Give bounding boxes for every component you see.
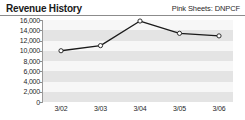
x-axis-tick-label: 3/06: [213, 105, 226, 113]
x-axis-tick-label: 3/02: [55, 105, 68, 113]
y-axis-tick-label: 2,000: [0, 88, 40, 95]
series-revenue: [43, 20, 233, 102]
data-point-marker: [177, 31, 181, 35]
revenue-history-widget: Revenue History Pink Sheets: DNPCF 16,00…: [0, 0, 245, 120]
x-axis-labels: 3/023/033/043/053/06: [43, 105, 233, 117]
y-axis-tick-label: 14,000: [0, 27, 40, 34]
widget-header: Revenue History Pink Sheets: DNPCF: [0, 0, 245, 16]
y-axis-tick-label: 6,000: [0, 68, 40, 75]
y-axis-tick-label: 16,000: [0, 17, 40, 24]
data-point-marker: [59, 49, 63, 53]
data-point-marker: [217, 34, 221, 38]
x-axis-tick-label: 3/03: [94, 105, 107, 113]
x-axis-tick-label: 3/05: [173, 105, 186, 113]
y-axis-tick-label: 10,000: [0, 47, 40, 54]
plot-area: [43, 20, 233, 102]
data-point-marker: [138, 19, 142, 23]
x-axis-tick-label: 3/04: [134, 105, 147, 113]
y-axis-labels: 16,00014,00012,00010,0008,0006,0004,0002…: [0, 17, 40, 120]
ticker-label: Pink Sheets: DNPCF: [172, 4, 240, 13]
y-axis-tick-label: 4,000: [0, 78, 40, 85]
revenue-line-chart: 16,00014,00012,00010,0008,0006,0004,0002…: [0, 17, 245, 120]
series-line: [61, 21, 219, 51]
data-point-marker: [98, 44, 102, 48]
y-axis-tick-label: 8,000: [0, 58, 40, 65]
y-axis-tick-label: 0: [0, 99, 40, 106]
y-axis-tick-label: 12,000: [0, 37, 40, 44]
page-title: Revenue History: [6, 3, 82, 14]
